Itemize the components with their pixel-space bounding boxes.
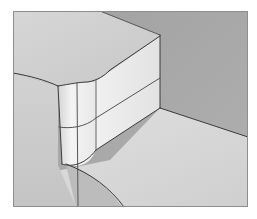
render-viewport: Shaded 3D render of a rectangular block … xyxy=(0,0,257,219)
3d-model-render xyxy=(0,0,257,219)
